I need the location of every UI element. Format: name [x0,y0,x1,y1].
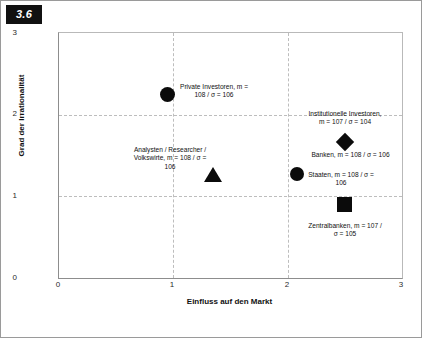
plot-area: Private Investoren, m = 108 / σ = 106 An… [58,32,403,279]
point-label-banken: Banken, m = 108 / σ = 106 [293,151,408,159]
point-label-institutionelle-investoren: Institutionelle Investoren, m = 107 / σ … [293,110,397,127]
y-axis-label: Grad der Irrationalität [17,26,26,206]
marker-staaten [290,167,304,181]
y-tick-1: 1 [0,191,17,200]
figure-number-badge: 3.6 [6,5,42,24]
point-label-private-investoren: Private Investoren, m = 108 / σ = 106 [180,83,248,100]
marker-zentralbanken [337,197,352,212]
x-tick-1: 1 [159,280,185,289]
marker-institutionelle-investoren-banken [336,132,354,150]
x-axis-label: Einfluss auf den Markt [58,297,401,306]
x-tick-3: 3 [388,280,414,289]
figure-container: 3.6 3 2 1 0 0 1 2 3 Einfluss auf den Mar… [0,0,422,338]
y-tick-0: 0 [0,273,17,282]
y-tick-2: 2 [0,109,17,118]
y-tick-3: 3 [0,28,17,37]
point-label-staaten: Staaten, m = 108 / σ = 106 [306,171,376,188]
x-tick-2: 2 [274,280,300,289]
x-tick-0: 0 [45,280,71,289]
point-label-analysten-researcher-volkswirte: Analysten / Researcher / Volkswirte, m =… [121,146,219,171]
point-label-zentralbanken: Zentralbanken, m = 107 / σ = 105 [291,222,399,239]
marker-private-investoren [160,87,175,102]
gridline-x-2 [288,33,289,278]
